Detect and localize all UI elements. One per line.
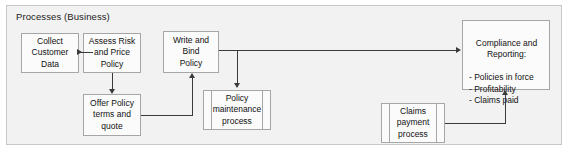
node-offer-policy-terms-and-quote-label: Offer Policy terms and quote: [90, 98, 134, 133]
node-collect-customer-data-label: Collect Customer Data: [32, 36, 69, 71]
node-compliance-and-reporting[interactable]: Compliance and Reporting: - Policies in …: [462, 20, 550, 90]
node-write-and-bind-policy[interactable]: Write and Bind Policy: [163, 31, 219, 73]
arrowhead-assess-to-offer: [109, 89, 115, 94]
diagram-frame: Processes (Business) Collect Customer Da…: [6, 5, 562, 145]
node-assess-risk-and-price-policy[interactable]: Assess Risk and Price Policy: [83, 33, 141, 73]
connector-offer-to-write-vertical: [192, 78, 193, 116]
node-collect-customer-data[interactable]: Collect Customer Data: [21, 33, 79, 73]
node-policy-maintenance-process[interactable]: Policy maintenance process: [203, 90, 271, 130]
arrowhead-collect-to-assess: [77, 49, 82, 55]
arrowhead-write-to-policy-maintenance: [234, 83, 240, 88]
node-assess-risk-and-price-policy-label: Assess Risk and Price Policy: [89, 36, 135, 71]
node-compliance-and-reporting-heading: Compliance and Reporting:: [469, 38, 544, 61]
connector-write-to-compliance: [219, 50, 459, 51]
connector-claims-to-compliance-horizontal: [445, 123, 506, 124]
diagram-title: Processes (Business): [16, 11, 110, 22]
connector-offer-to-write-horizontal: [141, 115, 193, 116]
node-write-and-bind-policy-label: Write and Bind Policy: [173, 35, 209, 70]
arrowhead-claims-to-compliance: [502, 90, 508, 95]
arrowhead-offer-to-write: [189, 73, 195, 78]
arrowhead-write-to-compliance: [456, 47, 461, 53]
node-claims-payment-process[interactable]: Claims payment process: [381, 103, 445, 143]
node-claims-payment-process-label: Claims payment process: [397, 106, 430, 141]
node-policy-maintenance-process-label: Policy maintenance process: [213, 93, 262, 128]
node-offer-policy-terms-and-quote[interactable]: Offer Policy terms and quote: [83, 94, 141, 136]
connector-claims-to-compliance-vertical: [505, 95, 506, 124]
connector-write-to-policy-maintenance: [237, 50, 238, 84]
